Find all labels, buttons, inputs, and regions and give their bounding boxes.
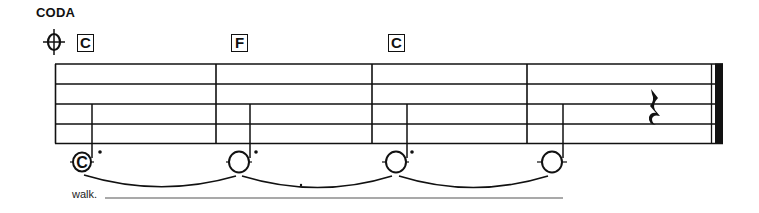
- staff-lines: [55, 64, 723, 144]
- note-2: [226, 104, 258, 173]
- quarter-rest-icon: [649, 89, 660, 125]
- final-barline: [715, 64, 723, 145]
- ties: [84, 175, 548, 188]
- music-staff: C: [0, 0, 759, 213]
- stray-dot: [300, 184, 302, 186]
- note-1: C: [70, 104, 102, 172]
- note-4: [537, 104, 567, 173]
- lyric-text: walk.: [72, 188, 97, 200]
- svg-text:C: C: [76, 154, 88, 171]
- coda-icon: [43, 29, 65, 55]
- note-3: [382, 104, 414, 173]
